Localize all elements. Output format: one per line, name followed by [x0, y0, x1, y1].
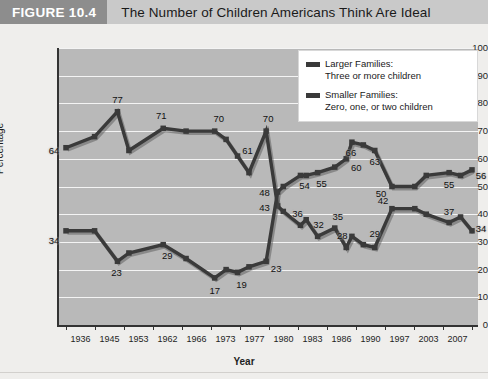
data-label: 29	[162, 250, 173, 261]
legend-label-line1: Larger Families:	[325, 58, 421, 70]
data-point-marker	[469, 167, 475, 173]
figure-title: The Number of Children Americans Think A…	[107, 0, 488, 24]
legend-item-smaller-families: Smaller Families:Zero, one, or two child…	[306, 89, 469, 113]
data-label: 55	[316, 178, 327, 189]
data-point-marker	[361, 242, 367, 248]
figure-container: FIGURE 10.4 The Number of Children Ameri…	[0, 0, 488, 379]
data-point-marker	[92, 228, 98, 234]
data-label: 28	[337, 230, 348, 241]
legend-label-line2: Zero, one, or two children	[325, 101, 433, 113]
legend-label: Larger Families:Three or more children	[325, 58, 421, 82]
legend-label-line2: Three or more children	[325, 70, 421, 82]
series-larger-families	[63, 109, 475, 250]
data-label: 29	[369, 228, 380, 239]
chart-plot-wrapper: 1009080706050403020100 Percentage 193619…	[0, 24, 488, 379]
data-label: 66	[346, 147, 357, 158]
data-point-marker	[115, 109, 121, 115]
data-point-marker	[349, 139, 355, 145]
data-point-marker	[212, 275, 218, 281]
data-label: 19	[236, 279, 247, 290]
data-label: 17	[209, 285, 220, 296]
data-point-marker	[458, 214, 464, 220]
data-label: 37	[444, 206, 455, 217]
data-point-marker	[458, 173, 464, 179]
data-label: 32	[313, 219, 324, 230]
data-point-marker	[298, 173, 304, 179]
data-point-marker	[343, 245, 349, 251]
data-label: 43	[259, 202, 270, 213]
legend-item-larger-families: Larger Families:Three or more children	[306, 58, 469, 82]
data-point-marker	[303, 217, 309, 223]
data-point-marker	[235, 270, 241, 276]
data-point-marker	[469, 228, 475, 234]
data-label: 61	[242, 145, 253, 156]
data-point-marker	[212, 128, 218, 134]
data-point-marker	[389, 206, 395, 212]
data-label: 63	[369, 156, 380, 167]
data-point-marker	[160, 126, 166, 132]
data-point-marker	[412, 206, 418, 212]
bottom-rule	[0, 372, 488, 373]
data-point-marker	[63, 228, 69, 234]
data-label: 55	[444, 179, 455, 190]
data-point-marker	[281, 209, 287, 215]
legend-swatch-icon	[306, 93, 320, 98]
data-point-marker	[115, 259, 121, 265]
data-point-marker	[424, 173, 430, 179]
legend-label: Smaller Families:Zero, one, or two child…	[325, 89, 433, 113]
data-point-marker	[235, 153, 241, 159]
data-point-marker	[183, 256, 189, 262]
data-label: 70	[213, 113, 224, 124]
data-label: 23	[111, 267, 122, 278]
data-point-marker	[412, 184, 418, 190]
data-point-marker	[183, 128, 189, 134]
data-point-marker	[372, 148, 378, 154]
data-label: 54	[299, 180, 310, 191]
data-point-marker	[372, 245, 378, 251]
data-point-marker	[303, 173, 309, 179]
data-point-marker	[446, 170, 452, 176]
data-label: 34	[476, 223, 487, 234]
chart-legend: Larger Families:Three or more childrenSm…	[298, 50, 478, 122]
data-point-marker	[446, 220, 452, 226]
data-point-marker	[63, 145, 69, 151]
legend-label-line1: Smaller Families:	[325, 89, 433, 101]
data-point-marker	[246, 170, 252, 176]
data-label: 71	[156, 110, 167, 121]
figure-header: FIGURE 10.4 The Number of Children Ameri…	[0, 0, 488, 24]
legend-swatch-icon	[306, 62, 320, 67]
data-label: 56	[476, 170, 487, 181]
data-point-marker	[349, 234, 355, 240]
data-label: 34	[49, 235, 60, 246]
data-point-marker	[315, 170, 321, 176]
data-point-marker	[361, 142, 367, 148]
data-point-marker	[223, 137, 229, 143]
data-label: 77	[112, 94, 123, 105]
data-label: 60	[351, 162, 362, 173]
data-point-marker	[315, 234, 321, 240]
data-label: 64	[49, 145, 60, 156]
data-point-marker	[281, 184, 287, 190]
data-point-marker	[92, 134, 98, 140]
data-label: 50	[376, 188, 387, 199]
data-point-marker	[298, 223, 304, 229]
data-point-marker	[263, 259, 269, 265]
data-point-marker	[160, 242, 166, 248]
data-point-marker	[389, 184, 395, 190]
data-label: 70	[263, 113, 274, 124]
data-point-marker	[126, 250, 131, 256]
data-point-marker	[223, 267, 229, 273]
data-point-marker	[126, 148, 131, 154]
data-point-marker	[275, 189, 281, 195]
figure-body: 1009080706050403020100 Percentage 193619…	[0, 24, 488, 379]
data-label: 35	[332, 211, 343, 222]
data-label: 36	[292, 208, 303, 219]
data-point-marker	[263, 128, 269, 134]
data-label: 48	[259, 187, 270, 198]
data-point-marker	[332, 164, 338, 170]
data-point-marker	[246, 264, 252, 270]
data-point-marker	[424, 211, 430, 217]
data-label: 23	[271, 263, 282, 274]
figure-number: FIGURE 10.4	[0, 0, 107, 24]
